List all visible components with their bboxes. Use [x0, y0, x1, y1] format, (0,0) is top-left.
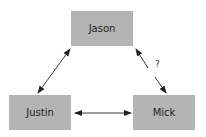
- edge-jason-mick-upper: [136, 49, 148, 68]
- node-label: Mick: [153, 107, 176, 118]
- node-label: Justin: [26, 107, 54, 118]
- edge-justin-jason: [38, 49, 70, 93]
- node-justin: Justin: [9, 95, 71, 130]
- edge-jason-mick-lower: [155, 77, 166, 93]
- node-jason: Jason: [71, 11, 133, 46]
- node-label: Jason: [89, 23, 116, 34]
- edge-label-question: ?: [155, 59, 160, 69]
- node-mick: Mick: [133, 95, 195, 130]
